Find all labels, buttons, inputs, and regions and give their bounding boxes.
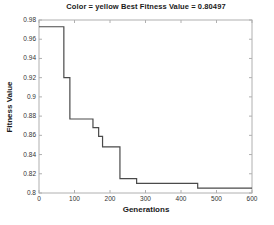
y-tick-label: 0.8 bbox=[27, 189, 36, 196]
y-tick-label: 0.88 bbox=[23, 112, 36, 119]
y-tick-label: 0.94 bbox=[23, 54, 36, 61]
x-tick-label: 300 bbox=[140, 195, 151, 202]
y-tick-label: 0.9 bbox=[27, 93, 36, 100]
y-tick-label: 0.84 bbox=[23, 151, 36, 158]
x-tick-label: 0 bbox=[37, 195, 41, 202]
x-axis-label: Generations bbox=[39, 205, 253, 214]
x-tick-label: 100 bbox=[69, 195, 80, 202]
y-tick-label: 0.92 bbox=[23, 74, 36, 81]
axes-box bbox=[39, 20, 252, 193]
x-tick-label: 400 bbox=[176, 195, 187, 202]
y-tick-label: 0.86 bbox=[23, 131, 36, 138]
ga-fitness-figure: Color = yellow Best Fitness Value = 0.80… bbox=[0, 0, 274, 225]
x-tick-label: 200 bbox=[105, 195, 116, 202]
y-tick-label: 0.96 bbox=[23, 35, 36, 42]
x-tick-label: 500 bbox=[211, 195, 222, 202]
plot-area: 01002003004005006000.80.820.840.860.880.… bbox=[0, 0, 274, 225]
x-tick-label: 600 bbox=[247, 195, 258, 202]
y-tick-label: 0.98 bbox=[23, 16, 36, 23]
y-tick-label: 0.82 bbox=[23, 170, 36, 177]
